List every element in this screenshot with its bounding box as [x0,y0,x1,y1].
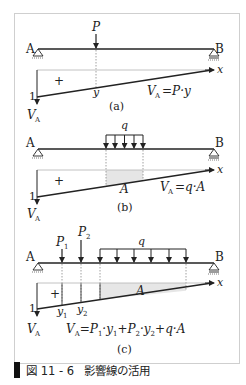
formula: VA=P1·y1+P2·y2+q·A [66,322,186,338]
panel-b: A B q x 1 + A V [25,119,224,223]
load-p2-sub: 2 [86,233,90,241]
support-a-label: A [25,42,35,56]
caption-number: 図 11 - 6 [26,362,74,378]
support-a-label: A [25,250,35,264]
panel-c: A B P 1 P 2 q [25,225,224,356]
pin-support-icon [32,263,44,272]
reaction-sub: A [34,215,41,223]
influence-line-figure: A B P x 1 + y V A =P·y V A (a) A B [0,0,246,385]
caption-marker [14,362,20,378]
influence-max-label: 1 [29,90,36,103]
formula-sub: A [167,188,174,196]
roller-support-icon [208,149,220,160]
distributed-load-icon [106,135,143,148]
sign-plus-label: + [54,74,64,88]
load-q-label: q [121,119,128,132]
load-q-label: q [138,235,145,248]
formula-sub: A [154,92,161,100]
ordinate-y2-sub: 2 [83,310,87,318]
panel-a: A B P x 1 + y V A =P·y V A (a) [25,20,224,124]
reaction-sub: A [34,330,41,338]
x-axis-label: x [217,63,224,76]
support-a-label: A [25,136,35,150]
support-b-label: B [215,136,224,150]
panel-label: (c) [117,343,132,356]
roller-support-icon [208,263,220,274]
reaction-sub: A [34,116,41,124]
area-a-label: A [135,284,145,298]
load-p1-sub: 1 [64,243,68,251]
area-a-label: A [119,182,129,196]
influence-max-label: 1 [29,302,36,315]
formula-text: VA=P1·y1+P2·y2+q·A [66,322,186,338]
load-p-label: P [91,20,101,34]
x-axis-label: x [217,276,224,289]
formula-rhs: =P·y [162,84,191,98]
sign-plus-label: + [54,174,64,188]
support-b-label: B [215,250,224,264]
influence-max-label: 1 [29,190,36,203]
distributed-load-icon [100,249,186,262]
panel-label: (b) [117,201,133,214]
x-axis-label: x [217,163,224,176]
caption-title: 影響線の活用 [84,362,150,378]
panel-label: (a) [109,100,124,113]
ordinate-y1-sub: 1 [63,312,67,320]
figure-caption: 図 11 - 6 影響線の活用 [14,362,150,378]
sign-plus-label: + [50,287,60,301]
ordinate-y-label: y [92,86,100,99]
formula-rhs: =q·A [175,180,206,194]
pin-support-icon [32,149,44,158]
